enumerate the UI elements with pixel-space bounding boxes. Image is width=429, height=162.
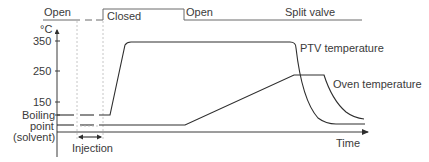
valve-title: Split valve bbox=[285, 6, 335, 18]
y-axis-unit: °C bbox=[40, 23, 52, 35]
x-axis-label: Time bbox=[336, 137, 360, 149]
valve-state-closed: Closed bbox=[107, 10, 141, 22]
oven-temperature-label: Oven temperature bbox=[333, 78, 422, 90]
tick-label-350: 350 bbox=[33, 35, 51, 47]
tick-label-250: 250 bbox=[33, 65, 51, 77]
ptv-diagram: Open Closed Open Split valve °C 350 250 … bbox=[0, 0, 429, 162]
ptv-temperature-label: PTV temperature bbox=[300, 42, 384, 54]
boiling-label-line3: (solvent) bbox=[13, 131, 55, 143]
injection-label: Injection bbox=[72, 142, 113, 154]
valve-state-open-1: Open bbox=[44, 6, 71, 18]
tick-label-150: 150 bbox=[33, 96, 51, 108]
valve-state-open-2: Open bbox=[186, 6, 213, 18]
